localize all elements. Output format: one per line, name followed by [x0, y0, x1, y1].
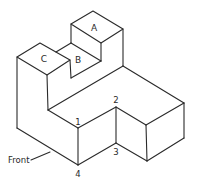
point-label-3: 3: [113, 147, 118, 157]
isometric-drawing: A B C 1 2 3 4 Front: [0, 0, 197, 183]
point-label-1: 1: [75, 117, 80, 127]
base: [17, 66, 184, 165]
front-leader: [31, 152, 50, 160]
point-label-2: 2: [113, 95, 118, 105]
face-label-c: C: [41, 54, 47, 64]
face-label-a: A: [91, 23, 98, 33]
point-label-4: 4: [75, 169, 80, 179]
front-annotation: Front: [8, 155, 30, 165]
face-label-b: B: [75, 55, 81, 65]
